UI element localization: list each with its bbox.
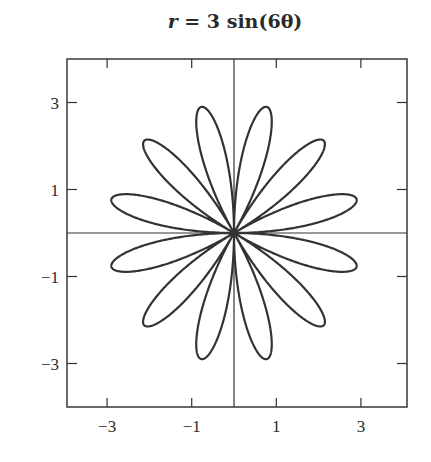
y-tick-label: 1 — [51, 181, 60, 200]
x-tick-label: −3 — [98, 417, 116, 436]
tick-labels: −3−11331−1−3 — [41, 94, 365, 437]
y-tick-label: −3 — [41, 355, 59, 374]
x-tick-label: −1 — [183, 417, 201, 436]
y-tick-label: 3 — [51, 94, 60, 113]
x-tick-label: 3 — [357, 417, 366, 436]
y-tick-label: −1 — [41, 268, 59, 287]
x-tick-label: 1 — [272, 417, 281, 436]
chart-svg: −3−11331−1−3 — [0, 0, 431, 462]
